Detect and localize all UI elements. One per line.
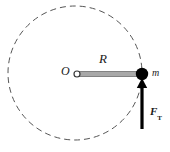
tension-force-subscript: T <box>157 114 162 122</box>
radius-label-R: R <box>99 52 107 65</box>
mass-label-m: m <box>152 68 159 78</box>
tension-arrow-shaft <box>140 84 143 129</box>
radius-rod <box>79 72 142 77</box>
center-pivot-marker <box>74 71 80 77</box>
diagram-canvas <box>0 0 170 152</box>
mass-dot <box>136 68 148 80</box>
center-label-O: O <box>61 65 70 77</box>
circular-motion-diagram: O R m FT <box>0 0 170 152</box>
tension-force-label: FT <box>150 106 162 120</box>
